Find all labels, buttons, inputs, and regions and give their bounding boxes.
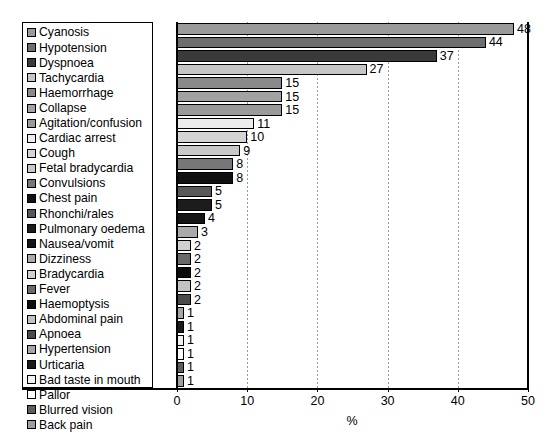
x-tick xyxy=(528,388,529,392)
bar-value-label: 4 xyxy=(205,211,215,225)
legend-item[interactable]: Collapse xyxy=(27,100,152,115)
legend-item-label: Dizziness xyxy=(39,253,91,265)
legend-item[interactable]: Fetal bradycardia xyxy=(27,161,152,176)
bar xyxy=(177,267,191,279)
legend-item-label: Cardiac arrest xyxy=(39,132,116,144)
legend-item-label: Cough xyxy=(39,147,75,159)
legend-swatch-icon xyxy=(27,375,36,384)
legend-item-label: Pulmonary oedema xyxy=(39,223,145,235)
bar-value-label: 48 xyxy=(514,22,531,36)
legend-swatch-icon xyxy=(27,28,36,37)
legend-swatch-icon xyxy=(27,330,36,339)
bar xyxy=(177,294,191,306)
x-axis-label: % xyxy=(346,414,357,428)
legend-swatch-icon xyxy=(27,405,36,414)
bar xyxy=(177,199,212,211)
legend-item-label: Apnoea xyxy=(39,328,81,340)
bar-row: 15 xyxy=(177,90,528,104)
legend-item[interactable]: Hypertension xyxy=(27,342,152,357)
bar-value-label: 3 xyxy=(198,225,208,239)
bar xyxy=(177,240,191,252)
legend-swatch-icon xyxy=(27,134,36,143)
legend-item[interactable]: Back pain xyxy=(27,417,152,432)
bar xyxy=(177,91,282,103)
legend-swatch-icon xyxy=(27,179,36,188)
bar xyxy=(177,307,184,319)
bar-value-label: 1 xyxy=(184,320,194,334)
legend-swatch-icon xyxy=(27,239,36,248)
bar-value-label: 1 xyxy=(184,360,194,374)
legend-item[interactable]: Haemorrhage xyxy=(27,85,152,100)
bar-value-label: 1 xyxy=(184,306,194,320)
bar xyxy=(177,145,240,157)
legend-item[interactable]: Bradycardia xyxy=(27,267,152,282)
legend-item[interactable]: Apnoea xyxy=(27,327,152,342)
legend-item-label: Rhonchi/rales xyxy=(39,208,114,220)
legend-swatch-icon xyxy=(27,285,36,294)
bar-row: 1 xyxy=(177,320,528,334)
legend-item[interactable]: Cough xyxy=(27,146,152,161)
bar-row: 3 xyxy=(177,225,528,239)
bar-row: 1 xyxy=(177,361,528,375)
legend-swatch-icon xyxy=(27,43,36,52)
legend-item[interactable]: Agitation/confusion xyxy=(27,116,152,131)
legend-item[interactable]: Haemoptysis xyxy=(27,297,152,312)
bar-value-label: 2 xyxy=(191,293,201,307)
legend-swatch-icon xyxy=(27,58,36,67)
legend-item[interactable]: Pallor xyxy=(27,387,152,402)
bar-value-label: 5 xyxy=(212,184,222,198)
bar xyxy=(177,23,514,35)
bar-value-label: 2 xyxy=(191,266,201,280)
x-tick xyxy=(177,388,178,392)
bar-row: 4 xyxy=(177,212,528,226)
legend-item[interactable]: Dyspnoea xyxy=(27,55,152,70)
bar-row: 1 xyxy=(177,306,528,320)
legend-swatch-icon xyxy=(27,390,36,399)
legend-item[interactable]: Hypotension xyxy=(27,40,152,55)
chart-root: 01020304050 4844372715151511109885543222… xyxy=(0,0,556,441)
bar xyxy=(177,362,184,374)
bar xyxy=(177,280,191,292)
x-tick xyxy=(247,388,248,392)
bar-row: 27 xyxy=(177,63,528,77)
legend-swatch-icon xyxy=(27,209,36,218)
legend-item[interactable]: Cardiac arrest xyxy=(27,131,152,146)
bar xyxy=(177,348,184,360)
bar-row: 2 xyxy=(177,279,528,293)
legend-item[interactable]: Chest pain xyxy=(27,191,152,206)
legend-item[interactable]: Urticaria xyxy=(27,357,152,372)
legend-item[interactable]: Tachycardia xyxy=(27,70,152,85)
bar-row: 48 xyxy=(177,22,528,36)
legend-item-label: Tachycardia xyxy=(39,72,104,84)
legend-item-label: Chest pain xyxy=(39,192,97,204)
bar xyxy=(177,226,198,238)
legend-item[interactable]: Pulmonary oedema xyxy=(27,221,152,236)
bar xyxy=(177,64,367,76)
legend-item[interactable]: Dizziness xyxy=(27,251,152,266)
legend-item[interactable]: Abdominal pain xyxy=(27,312,152,327)
bar-value-label: 11 xyxy=(254,117,270,131)
bar xyxy=(177,131,247,143)
legend-item[interactable]: Cyanosis xyxy=(27,25,152,40)
legend-item[interactable]: Fever xyxy=(27,282,152,297)
legend-item[interactable]: Convulsions xyxy=(27,176,152,191)
bar-row: 5 xyxy=(177,185,528,199)
bar-row: 2 xyxy=(177,252,528,266)
x-tick xyxy=(388,388,389,392)
x-tick xyxy=(317,388,318,392)
bar-value-label: 9 xyxy=(240,144,250,158)
x-tick-label: 0 xyxy=(174,394,181,408)
legend-item[interactable]: Blurred vision xyxy=(27,402,152,417)
legend-item[interactable]: Nausea/vomit xyxy=(27,236,152,251)
legend-swatch-icon xyxy=(27,345,36,354)
legend-swatch-icon xyxy=(27,254,36,263)
bar-value-label: 2 xyxy=(191,252,201,266)
bar-value-label: 15 xyxy=(282,103,299,117)
legend-item[interactable]: Rhonchi/rales xyxy=(27,206,152,221)
legend-item-label: Hypertension xyxy=(39,343,111,355)
bar-row: 5 xyxy=(177,198,528,212)
legend-item-label: Fever xyxy=(39,283,70,295)
bar-value-label: 1 xyxy=(184,333,194,347)
legend-item[interactable]: Bad taste in mouth xyxy=(27,372,152,387)
bar-row: 2 xyxy=(177,239,528,253)
